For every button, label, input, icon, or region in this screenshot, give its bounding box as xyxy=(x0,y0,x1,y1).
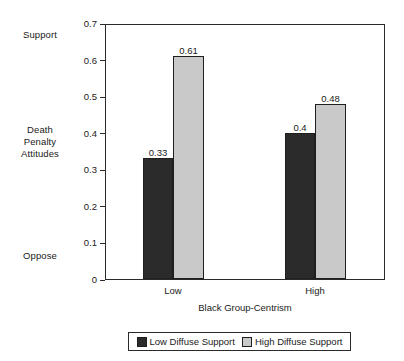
x-tick-label-high: High xyxy=(284,285,346,297)
bar-value-label-low-dark: 0.33 xyxy=(128,147,188,158)
legend-label: Low Diffuse Support xyxy=(150,336,235,347)
bar-value-label-high-dark: 0.4 xyxy=(270,122,330,133)
x-tick-label-low: Low xyxy=(142,285,204,297)
y-tick-label: 0 xyxy=(92,274,97,286)
y-tick-0.2: 0.2 xyxy=(0,201,105,213)
y-tick-0.6: 0.6 xyxy=(0,55,105,67)
y-tick-label: 0.3 xyxy=(84,164,97,176)
bar-chart-figure: Support Death Penalty Attitudes Oppose 0… xyxy=(0,0,404,361)
clipped-caption-remnant xyxy=(22,356,382,361)
y-tick-0.3: 0.3 xyxy=(0,164,105,176)
y-tick-label: 0.2 xyxy=(84,201,97,213)
y-tick-0.5: 0.5 xyxy=(0,91,105,103)
y-tick-label: 0.6 xyxy=(84,55,97,67)
legend-item-high-diffuse-support[interactable]: High Diffuse Support xyxy=(242,336,343,347)
y-tick-label: 0.7 xyxy=(84,18,97,30)
bar-value-label-high-light: 0.48 xyxy=(300,93,361,104)
chart-legend: Low Diffuse Support High Diffuse Support xyxy=(128,332,351,351)
y-tick-0.4: 0.4 xyxy=(0,128,105,140)
y-tick-label: 0.4 xyxy=(84,128,97,140)
y-tick-0.1: 0.1 xyxy=(0,237,105,249)
y-axis: 0.7 0.6 0.5 0.4 0.3 0.2 0.1 0 xyxy=(0,0,105,361)
legend-label: High Diffuse Support xyxy=(255,336,343,347)
y-tick-0.7: 0.7 xyxy=(0,18,105,30)
bar-low-diffuse-support-high[interactable] xyxy=(285,133,315,279)
bar-high-diffuse-support-low[interactable] xyxy=(173,56,204,279)
legend-item-low-diffuse-support[interactable]: Low Diffuse Support xyxy=(137,336,235,347)
bar-low-diffuse-support-low[interactable] xyxy=(143,158,173,279)
y-tick-label: 0.1 xyxy=(84,237,97,249)
bar-value-label-low-light: 0.61 xyxy=(158,45,219,56)
legend-swatch-icon-dark xyxy=(137,337,147,347)
y-tick-label: 0.5 xyxy=(84,91,97,103)
legend-swatch-icon-light xyxy=(242,337,252,347)
y-tick-0: 0 xyxy=(0,274,105,286)
plot-area: 0.33 0.61 0.4 0.48 xyxy=(105,24,385,280)
x-axis-title: Black Group-Centrism xyxy=(105,302,385,314)
